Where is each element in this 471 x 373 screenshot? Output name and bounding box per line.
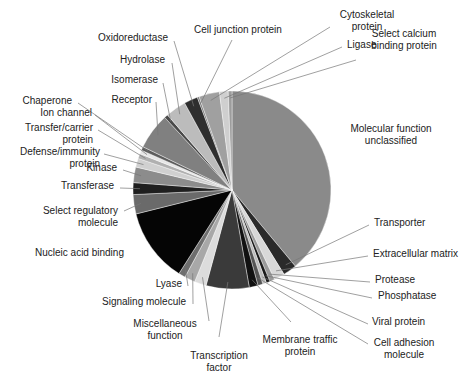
slice-label-nucleic-acid-binding: Nucleic acid binding	[35, 247, 124, 258]
slice-label-receptor: Receptor	[111, 94, 152, 105]
slice-label-line: Ion channel	[40, 107, 92, 118]
slice-label-line: Select calcium	[372, 28, 436, 39]
slice-label-line: protein	[62, 134, 93, 145]
leader-line-viral-protein	[262, 277, 368, 324]
slice-label-line: Cell adhesion	[374, 337, 435, 348]
slice-label-hydrolase: Hydrolase	[120, 54, 165, 65]
slice-label-line: Signaling molecule	[102, 296, 186, 307]
slice-label-molecular-function-unclassified: Molecular functionunclassified	[350, 123, 431, 146]
slice-label-line: Select regulatory	[43, 205, 118, 216]
slice-label-ion-channel: Ion channel	[40, 107, 92, 118]
slice-label-line: Chaperone	[23, 95, 73, 106]
slice-label-line: Lyase	[156, 278, 183, 289]
slice-label-protease: Protease	[375, 274, 415, 285]
slice-label-oxidoreductase: Oxidoreductase	[98, 32, 168, 43]
slice-label-line: Viral protein	[372, 316, 425, 327]
slice-label-line: Cell junction protein	[194, 24, 282, 35]
slice-label-line: Oxidoreductase	[98, 32, 168, 43]
slice-label-line: Cytoskeletal	[340, 9, 394, 20]
slice-label-transcription-factor: Transcriptionfactor	[190, 350, 247, 373]
slice-label-line: protein	[69, 158, 100, 169]
slice-label-cell-adhesion-molecule: Cell adhesionmolecule	[374, 337, 435, 360]
slice-label-line: binding protein	[371, 40, 437, 51]
slice-label-extracellular-matrix: Extracellular matrix	[373, 248, 458, 259]
slice-label-select-regulatory-molecule: Select regulatorymolecule	[43, 205, 118, 228]
slice-label-select-calcium-binding-protein: Select calciumbinding protein	[371, 28, 437, 51]
slice-label-line: Transferase	[61, 180, 114, 191]
slice-label-line: Protease	[375, 274, 415, 285]
leader-line-protease	[269, 274, 370, 282]
slice-label-phosphatase: Phosphatase	[378, 290, 437, 301]
leader-line-hydrolase	[172, 63, 180, 114]
slice-label-membrane-traffic-protein: Membrane trafficprotein	[263, 334, 338, 357]
slice-label-miscellaneous-function: Miscellaneousfunction	[133, 318, 196, 341]
slice-label-line: Transcription	[190, 350, 247, 361]
slice-label-signaling-molecule: Signaling molecule	[102, 296, 186, 307]
leader-line-ligase	[224, 47, 342, 98]
slice-label-line: Isomerase	[111, 74, 158, 85]
slice-label-viral-protein: Viral protein	[372, 316, 425, 327]
slice-label-line: unclassified	[365, 135, 417, 146]
slice-label-line: function	[147, 330, 182, 341]
slice-label-line: Nucleic acid binding	[35, 247, 124, 258]
slice-label-line: Transporter	[374, 217, 426, 228]
slice-label-line: Receptor	[111, 94, 152, 105]
slice-label-line: factor	[206, 362, 232, 373]
slice-label-transporter: Transporter	[374, 217, 426, 228]
slice-label-line: Extracellular matrix	[373, 248, 458, 259]
leader-line-select-calcium-binding-protein	[230, 60, 356, 98]
pie-chart: Molecular functionunclassifiedTransporte…	[0, 0, 471, 373]
slice-label-cell-junction-protein: Cell junction protein	[194, 24, 282, 35]
slice-label-transferase: Transferase	[61, 180, 114, 191]
slice-label-transfer-carrier-protein: Transfer/carrierprotein	[25, 122, 94, 145]
slice-label-line: Membrane traffic	[263, 334, 338, 345]
slice-label-line: Defense/immunity	[20, 146, 100, 157]
slice-label-line: Transfer/carrier	[25, 122, 94, 133]
slice-label-line: Hydrolase	[120, 54, 165, 65]
slice-label-line: Phosphatase	[378, 290, 437, 301]
slice-label-line: Molecular function	[350, 123, 431, 134]
leader-line-phosphatase	[266, 276, 372, 298]
slice-label-line: molecule	[78, 217, 118, 228]
slice-label-chaperone: Chaperone	[23, 95, 73, 106]
pie-slices	[133, 91, 331, 289]
slice-label-isomerase: Isomerase	[111, 74, 158, 85]
slice-label-defense-immunity-protein: Defense/immunityprotein	[20, 146, 100, 169]
leader-line-cytoskeletal-protein	[211, 27, 330, 100]
slice-label-line: Miscellaneous	[133, 318, 196, 329]
leader-line-transcription-factor	[219, 282, 228, 337]
slice-label-lyase: Lyase	[156, 278, 183, 289]
leader-line-ion-channel	[95, 115, 147, 155]
slice-label-line: protein	[285, 346, 316, 357]
slice-label-line: molecule	[384, 349, 424, 360]
